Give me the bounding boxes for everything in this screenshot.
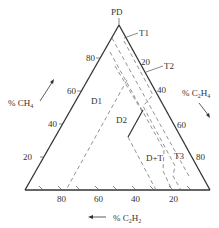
axis-label-ch4: % CH4	[8, 98, 33, 109]
apex-label-pd: PD	[111, 7, 123, 17]
zone-label-t1: T1	[139, 28, 149, 38]
triangle-right-edge	[119, 25, 210, 190]
left-tick-label: 40	[48, 119, 58, 129]
right-tick-label: 20	[141, 57, 151, 67]
bottom-tick-label: 20	[169, 194, 179, 204]
right-tick-label: 40	[157, 85, 167, 95]
bottom-tick-label: 40	[131, 194, 141, 204]
ch4-arrowhead-icon	[50, 79, 54, 84]
right-tick-label: 60	[177, 120, 187, 130]
bottom-tick-label: 80	[57, 194, 67, 204]
left-tick-label: 20	[23, 152, 33, 162]
boundary-t2-t3	[115, 66, 143, 113]
zone-label-dt: D+T	[146, 153, 164, 163]
right-tick-label: 80	[196, 152, 206, 162]
left-tick-label: 80	[86, 53, 96, 63]
zone-label-t2: T2	[164, 61, 174, 71]
boundary-d2-dt	[128, 137, 156, 190]
triangle-left-edge	[25, 25, 119, 190]
boundary-d2-solid	[128, 110, 143, 137]
axis-label-c2h4: % C2H4	[182, 88, 210, 99]
zone-label-d1: D1	[91, 96, 102, 106]
c2h2-arrowhead-icon	[88, 215, 93, 219]
zone-label-t3: T3	[174, 151, 184, 161]
left-tick-label: 60	[67, 86, 77, 96]
t1-leader	[124, 33, 138, 38]
axis-label-c2h2: % C2H2	[113, 213, 141, 224]
ch4-arrow	[40, 81, 53, 101]
c2h4-arrowhead-icon	[206, 113, 210, 118]
bottom-tick-label: 60	[94, 194, 104, 204]
duval-triangle: 20 40 60 80 20 40 60 80 80 60 40 20 PD T…	[0, 0, 219, 228]
zone-label-d2: D2	[116, 115, 127, 125]
